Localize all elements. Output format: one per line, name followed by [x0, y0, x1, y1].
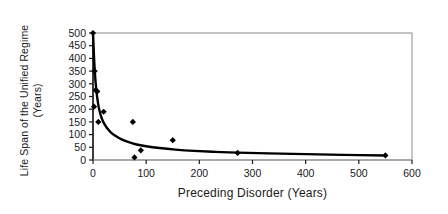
trend-curve-path [93, 33, 385, 155]
plot-frame [93, 33, 412, 160]
y-axis-title-line-1: Life Span of the Unified Regime [19, 24, 32, 175]
y-tick-label: 400 [68, 52, 86, 64]
y-tick-label: 50 [74, 141, 86, 153]
x-tick-label: 200 [191, 167, 209, 179]
data-point-marker [382, 152, 388, 158]
x-tick-label: 500 [350, 167, 368, 179]
data-point-markers [90, 30, 389, 161]
data-point-marker [90, 30, 96, 36]
chart-figure: Life Span of the Unified Regime (Years) … [0, 0, 448, 214]
y-tick-label: 0 [80, 154, 86, 166]
x-axis-ticks: 0100200300400500600 [90, 160, 421, 179]
data-point-marker [138, 147, 144, 153]
y-tick-label: 450 [68, 39, 86, 51]
y-axis-title-line-2: (Years) [31, 24, 44, 175]
x-tick-label: 600 [403, 167, 421, 179]
x-tick-label: 0 [90, 167, 96, 179]
x-axis-title: Preceding Disorder (Years) [93, 186, 412, 200]
y-tick-label: 300 [68, 78, 86, 90]
y-tick-label: 100 [68, 128, 86, 140]
data-point-marker [235, 150, 241, 156]
scatter-plot-canvas: 050100150200250300350400450500 010020030… [0, 0, 448, 214]
x-tick-label: 100 [137, 167, 155, 179]
y-tick-label: 250 [68, 90, 86, 102]
y-axis-title: Life Span of the Unified Regime (Years) [2, 0, 60, 200]
data-point-marker [95, 119, 101, 125]
data-point-marker [170, 137, 176, 143]
y-tick-label: 500 [68, 27, 86, 39]
x-tick-label: 300 [244, 167, 262, 179]
y-tick-label: 150 [68, 116, 86, 128]
y-tick-label: 350 [68, 65, 86, 77]
data-point-marker [130, 119, 136, 125]
y-tick-label: 200 [68, 103, 86, 115]
x-tick-label: 400 [297, 167, 315, 179]
y-axis-ticks: 050100150200250300350400450500 [68, 27, 93, 166]
trend-curve [93, 33, 385, 155]
